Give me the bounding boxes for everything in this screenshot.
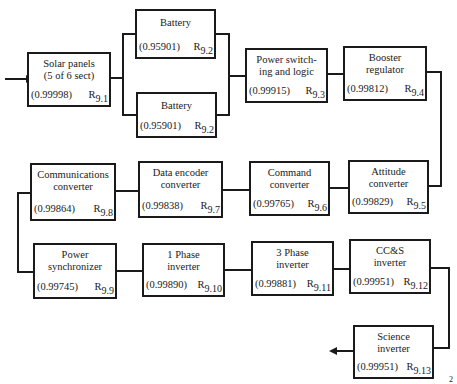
reliability-label: R9.4 [404, 83, 424, 98]
reliability-value: (0.99812) [347, 83, 388, 94]
block-3-phase-inverter: 3 Phase inverter (0.99881) R9.11 [251, 241, 334, 296]
block-name: Command converter [251, 167, 328, 191]
block-science-inverter: Science inverter (0.99951) R9.13 [353, 325, 434, 379]
reliability-label: R9.6 [307, 198, 327, 213]
block-name: Solar panels (5 of 6 sect) [29, 58, 109, 82]
reliability-value: (0.99915) [249, 85, 290, 96]
block-1-phase-inverter: 1 Phase inverter (0.99890) R9.10 [142, 243, 225, 297]
reliability-label: R9.1 [88, 89, 108, 104]
block-battery-2: Battery (0.95901) R9.2 [136, 92, 217, 138]
reliability-label: R9.7 [200, 200, 220, 215]
reliability-value: (0.99864) [34, 203, 75, 214]
reliability-value: (0.99745) [37, 281, 78, 292]
reliability-value: (0.95901) [139, 41, 180, 52]
reliability-label: R9.9 [94, 281, 114, 296]
reliability-label: R9.2 [193, 41, 213, 56]
reliability-value: (0.99890) [146, 279, 187, 290]
block-power-synchronizer: Power synchronizer (0.99745) R9.9 [33, 243, 117, 299]
block-name: Booster regulator [345, 52, 425, 76]
block-power-switching: Power switch- ing and logic (0.99915) R9… [245, 48, 328, 103]
reliability-block-diagram: Solar panels (5 of 6 sect) (0.99998) R9.… [0, 0, 457, 384]
reliability-label: R9.2 [194, 120, 214, 135]
reliability-label: R9.8 [93, 203, 113, 218]
reliability-label: R9.5 [406, 196, 426, 211]
reliability-label: R9.12 [403, 276, 428, 291]
block-data-encoder-converter: Data encoder converter (0.99838) R9.7 [138, 161, 223, 218]
reliability-label: R9.13 [406, 361, 431, 376]
reliability-value: (0.99765) [253, 198, 294, 209]
block-name: 3 Phase inverter [253, 247, 332, 271]
block-name: Data encoder converter [140, 167, 221, 191]
block-attitude-converter: Attitude converter (0.99829) R9.5 [348, 160, 429, 214]
block-communications-converter: Communications converter (0.99864) R9.8 [30, 163, 116, 221]
reliability-value: (0.95901) [140, 120, 181, 131]
block-battery-1: Battery (0.95901) R9.2 [135, 9, 216, 59]
block-name: Power switch- ing and logic [247, 54, 326, 78]
reliability-value: (0.99881) [255, 278, 296, 289]
block-command-converter: Command converter (0.99765) R9.6 [249, 161, 330, 216]
page-mark: 2 [449, 375, 453, 384]
block-name: Battery [137, 17, 214, 29]
reliability-value: (0.99951) [353, 276, 394, 287]
reliability-label: R9.11 [307, 278, 331, 293]
reliability-value: (0.99829) [352, 196, 393, 207]
block-booster-regulator: Booster regulator (0.99812) R9.4 [343, 46, 427, 101]
reliability-label: R9.10 [197, 279, 222, 294]
reliability-value: (0.99998) [31, 89, 72, 100]
block-solar-panels: Solar panels (5 of 6 sect) (0.99998) R9.… [27, 52, 111, 107]
reliability-value: (0.99951) [357, 361, 398, 372]
block-name: CC&S inverter [351, 245, 429, 269]
block-name: Battery [138, 100, 215, 112]
block-ccs-inverter: CC&S inverter (0.99951) R9.12 [349, 239, 431, 294]
reliability-value: (0.99838) [142, 200, 183, 211]
block-name: Power synchronizer [35, 249, 115, 273]
block-name: Attitude converter [350, 166, 427, 190]
block-name: Science inverter [355, 331, 432, 355]
block-name: Communications converter [32, 169, 114, 193]
reliability-label: R9.3 [305, 85, 325, 100]
block-name: 1 Phase inverter [144, 249, 223, 273]
